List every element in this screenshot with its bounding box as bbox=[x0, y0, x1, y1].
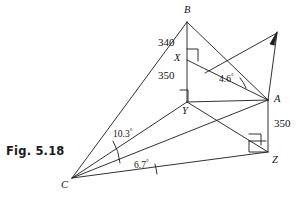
ray-through-a bbox=[205, 33, 277, 73]
figure-caption: Fig. 5.18 bbox=[6, 144, 65, 158]
figure-page: Fig. 5.18 B X Y A Z C 340 350 350 10.3° … bbox=[0, 0, 296, 199]
point-label-y: Y bbox=[182, 106, 188, 117]
length-label-bx: 340 bbox=[158, 37, 175, 48]
point-label-b: B bbox=[184, 5, 190, 16]
point-label-z: Z bbox=[272, 155, 278, 166]
angle-label-4-6: 4.6° bbox=[219, 73, 234, 85]
segment-c-y bbox=[72, 102, 187, 178]
degree-symbol-icon-3: ° bbox=[231, 72, 234, 80]
segment-c-a bbox=[72, 100, 268, 178]
right-angle-at-X bbox=[187, 49, 198, 61]
right-angle-at-Z-upper bbox=[249, 134, 261, 145]
segment-c-z bbox=[72, 152, 268, 178]
angle-label-6-7: 6.7° bbox=[134, 159, 149, 171]
right-angle-at-Z-lower bbox=[249, 141, 266, 152]
angle-value-6-7: 6.7 bbox=[134, 160, 146, 170]
point-label-a: A bbox=[274, 94, 280, 105]
degree-symbol-icon: ° bbox=[130, 127, 133, 135]
angle-value-4-6: 4.6 bbox=[219, 74, 231, 84]
degree-symbol-icon-2: ° bbox=[146, 158, 149, 166]
length-label-az: 350 bbox=[274, 118, 291, 129]
point-label-x: X bbox=[174, 53, 180, 64]
length-label-xy: 350 bbox=[158, 70, 175, 81]
angle-label-10-3: 10.3° bbox=[113, 128, 132, 140]
angle-arc-6-7 bbox=[155, 164, 157, 174]
angle-value-10-3: 10.3 bbox=[113, 129, 130, 139]
point-label-c: C bbox=[61, 180, 68, 191]
segment-y-a bbox=[187, 100, 268, 102]
